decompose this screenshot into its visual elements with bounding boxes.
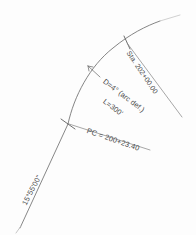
station-leader-line bbox=[127, 43, 182, 117]
back-tangent-tail bbox=[16, 226, 21, 233]
curve-diagram: Sta. 202+00.00 D=4° (arc def.) L=300' PC… bbox=[0, 0, 196, 235]
back-tangent-line bbox=[20, 124, 68, 228]
pc-tick-mark bbox=[61, 119, 75, 129]
arc-forward-tail bbox=[160, 15, 180, 21]
curve-geometry-svg bbox=[0, 0, 196, 235]
circular-arc bbox=[68, 21, 160, 124]
pc-leader-line bbox=[69, 124, 150, 150]
